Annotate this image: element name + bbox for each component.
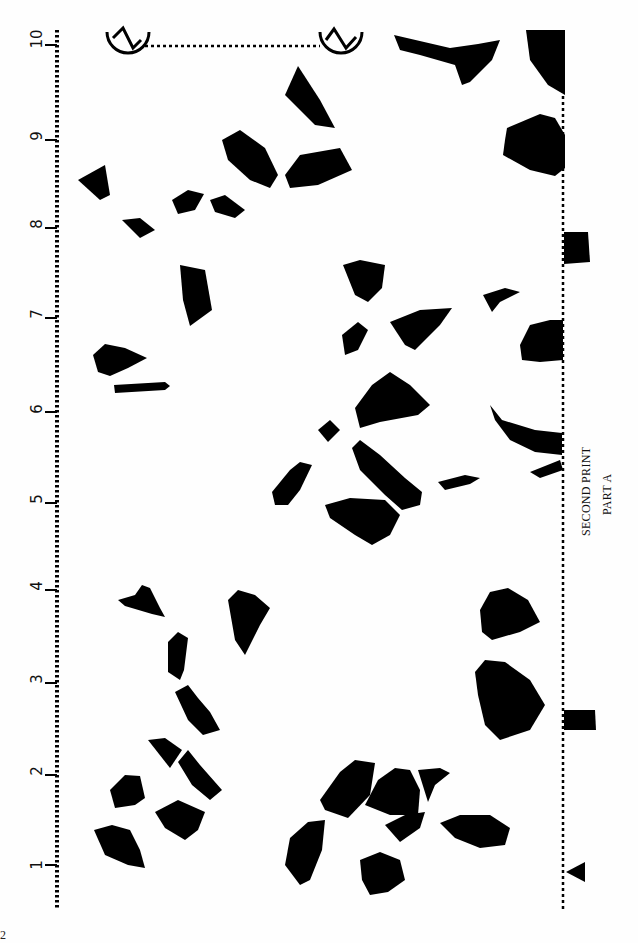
ruler-label-1: 1 (28, 855, 46, 875)
caption-second-print: SECOND PRINT (579, 447, 594, 536)
registration-mark-left (107, 28, 149, 53)
page-number-fragment: 2 (0, 928, 6, 943)
scanned-page: 1 2 3 4 5 6 7 8 9 10 SECOND PRINT PART A… (0, 0, 638, 943)
ruler-label-5: 5 (28, 489, 46, 509)
ruler-label-7: 7 (28, 304, 46, 324)
shapes-artwork (0, 0, 638, 943)
ruler-label-4: 4 (28, 576, 46, 596)
registration-mark-right (320, 29, 362, 53)
ruler-label-10: 10 (28, 29, 46, 49)
black-shapes (78, 30, 596, 895)
ruler-label-9: 9 (28, 126, 46, 146)
caption-part-a: PART A (600, 474, 615, 515)
ruler-label-3: 3 (28, 669, 46, 689)
ruler-label-2: 2 (28, 761, 46, 781)
ruler-label-8: 8 (28, 214, 46, 234)
ruler-label-6: 6 (28, 399, 46, 419)
